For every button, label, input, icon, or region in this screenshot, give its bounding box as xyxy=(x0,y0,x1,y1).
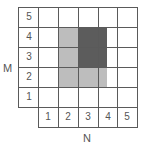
col-label: 2 xyxy=(58,107,78,127)
row-label: 2 xyxy=(19,67,39,87)
row-label: 4 xyxy=(19,27,39,47)
row-label: 5 xyxy=(19,7,39,27)
col-label: 3 xyxy=(78,107,98,127)
col-label: 5 xyxy=(117,107,137,127)
row-label: 3 xyxy=(19,47,39,67)
col-label: 1 xyxy=(38,107,58,127)
col-label: 4 xyxy=(98,107,118,127)
row-axis-label: M xyxy=(3,62,12,74)
col-axis-label: N xyxy=(83,132,91,144)
row-label: 1 xyxy=(19,87,39,107)
grid-line xyxy=(137,7,138,128)
grid-line xyxy=(38,127,137,128)
